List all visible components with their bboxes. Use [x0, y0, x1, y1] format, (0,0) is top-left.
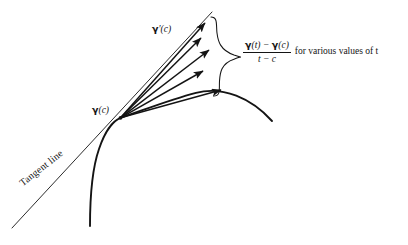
fraction-denominator: t − c [256, 53, 278, 65]
numerator-minus-sign: − [260, 40, 271, 50]
difference-quotient-fraction: γ(t)−γ(c) t − c [243, 40, 291, 64]
annotation-difference-quotient: γ(t)−γ(c) t − c for various values of t [243, 40, 378, 64]
vector-arrow-3 [121, 50, 210, 118]
gamma-c-suffix: (c) [98, 105, 109, 115]
curve-gamma [90, 91, 272, 226]
annotation-trailing-text: for various values of t [295, 47, 378, 57]
difference-quotient-vectors [121, 23, 222, 118]
tangent-vector-diagram [0, 0, 408, 245]
vector-arrow-2 [121, 38, 202, 118]
label-gamma-prime-c: γ′(c) [152, 24, 171, 35]
base-point-marker [119, 116, 123, 120]
numerator-arg-2: (c) [278, 40, 289, 50]
grouping-brace [211, 17, 241, 96]
tangent-line [12, 12, 212, 228]
fraction-numerator: γ(t)−γ(c) [243, 40, 291, 52]
label-gamma-c: γ(c) [92, 105, 109, 116]
gamma-prime-suffix: ′(c) [158, 24, 171, 34]
